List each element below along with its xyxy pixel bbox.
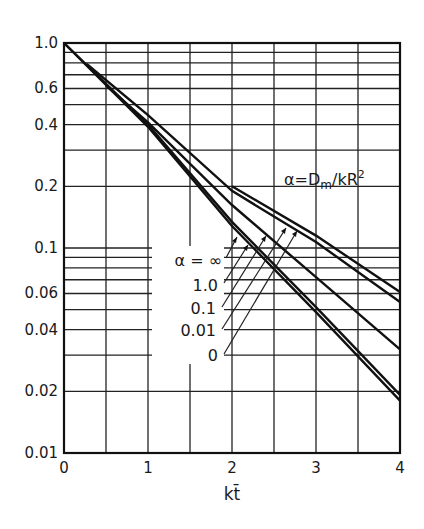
y-tick-label: 0.06 [25, 284, 58, 302]
x-tick-label: 3 [311, 459, 321, 477]
x-axis-ticks: 01234 [59, 459, 405, 477]
x-axis-label: kt̄ [224, 483, 241, 504]
grid-lines [64, 43, 400, 453]
y-tick-label: 0.4 [34, 116, 58, 134]
x-tick-label: 4 [395, 459, 405, 477]
legend-label-alpha-inf: α = ∞ [175, 251, 222, 270]
y-tick-label: 0.01 [25, 444, 58, 462]
x-tick-label: 1 [143, 459, 153, 477]
legend-pointers [222, 228, 297, 354]
legend-label-alpha-1: 1.0 [193, 276, 218, 295]
x-tick-label: 0 [59, 459, 69, 477]
y-tick-label: 1.0 [34, 34, 58, 52]
formula-annotation: α=Dm/kR2 [284, 168, 365, 192]
legend-label-alpha-0.1: 0.1 [191, 299, 216, 318]
y-tick-label: 0.1 [34, 239, 58, 257]
legend-label-alpha-0: 0 [208, 346, 218, 365]
chart: 1.00.60.40.20.10.060.040.020.01 01234 kt… [0, 0, 424, 529]
legend-label-alpha-0.01: 0.01 [180, 321, 216, 340]
y-tick-label: 0.2 [34, 177, 58, 195]
y-tick-label: 0.02 [25, 382, 58, 400]
y-tick-label: 0.04 [25, 321, 58, 339]
y-axis-ticks: 1.00.60.40.20.10.060.040.020.01 [25, 34, 58, 462]
y-tick-label: 0.6 [34, 79, 58, 97]
x-tick-label: 2 [227, 459, 237, 477]
